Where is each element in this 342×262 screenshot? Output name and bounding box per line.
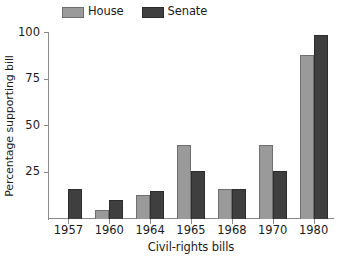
- bar-group: [89, 33, 130, 219]
- bar-house[interactable]: [136, 195, 150, 219]
- bar-group: [211, 33, 252, 219]
- bar-group: [130, 33, 171, 219]
- chart-legend: House Senate: [62, 5, 207, 19]
- legend-entry-house: House: [62, 6, 124, 18]
- y-axis-title: Percentage supporting bill: [2, 33, 16, 219]
- y-axis-tick-label: 75: [25, 73, 40, 85]
- bar-senate[interactable]: [314, 35, 328, 219]
- legend-entry-senate: Senate: [142, 6, 208, 18]
- legend-swatch-house-icon: [62, 7, 84, 18]
- legend-swatch-senate-icon: [142, 7, 164, 18]
- x-axis-tick-label: 1964: [135, 225, 164, 237]
- bar-group: [171, 33, 212, 219]
- x-axis-tick-label: 1957: [54, 225, 83, 237]
- x-axis-tick-label: 1980: [299, 225, 328, 237]
- bar-senate[interactable]: [191, 171, 205, 219]
- bar-house[interactable]: [177, 145, 191, 219]
- bar-group: [293, 33, 334, 219]
- bar-senate[interactable]: [68, 189, 82, 219]
- x-axis-tick-label: 1960: [95, 225, 124, 237]
- legend-label-house: House: [88, 6, 124, 18]
- bar-series-container: [48, 33, 334, 219]
- legend-label-senate: Senate: [168, 6, 208, 18]
- bar-group: [252, 33, 293, 219]
- bar-senate[interactable]: [273, 171, 287, 219]
- x-axis-tick-label: 1968: [217, 225, 246, 237]
- bar-senate[interactable]: [232, 189, 246, 219]
- x-axis-tick-label: 1965: [176, 225, 205, 237]
- bar-chart-figure: House Senate Percentage supporting bill …: [0, 0, 342, 262]
- y-axis-tick-label: 25: [25, 166, 40, 178]
- bar-senate[interactable]: [109, 200, 123, 219]
- bar-house[interactable]: [259, 145, 273, 219]
- y-axis-tick-label: 100: [18, 27, 40, 39]
- x-axis-tick-label: 1970: [258, 225, 287, 237]
- bar-house[interactable]: [95, 210, 109, 219]
- bar-house[interactable]: [300, 55, 314, 219]
- bar-house[interactable]: [218, 189, 232, 219]
- x-axis-title: Civil-rights bills: [48, 240, 334, 254]
- plot-area: 25 50 75 100: [48, 33, 334, 219]
- bar-group: [48, 33, 89, 219]
- bar-senate[interactable]: [150, 191, 164, 219]
- y-axis-tick-label: 50: [25, 120, 40, 132]
